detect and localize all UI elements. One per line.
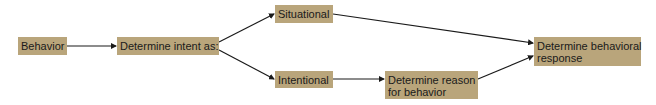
edge-intent-to-intentional	[219, 50, 274, 79]
node-determine-intent: Determine intent as:	[117, 37, 219, 55]
node-determine-intent-label: Determine intent as:	[120, 40, 218, 52]
edge-reason-to-response	[478, 56, 533, 79]
node-behavior-label: Behavior	[21, 40, 64, 52]
node-determine-response-line2: response	[537, 52, 638, 64]
node-determine-reason-line2: for behavior	[388, 86, 475, 98]
node-determine-response-line1: Determine behavioral	[537, 40, 638, 52]
node-determine-response: Determine behavioral response	[534, 37, 641, 66]
edge-situational-to-response	[333, 14, 533, 43]
node-intentional: Intentional	[275, 71, 333, 88]
node-situational: Situational	[275, 5, 333, 23]
node-intentional-label: Intentional	[278, 74, 329, 86]
node-determine-reason: Determine reason for behavior	[385, 71, 478, 99]
node-determine-reason-line1: Determine reason	[388, 74, 475, 86]
edge-intent-to-situational	[219, 14, 274, 42]
node-situational-label: Situational	[278, 8, 329, 20]
node-behavior: Behavior	[18, 37, 67, 55]
